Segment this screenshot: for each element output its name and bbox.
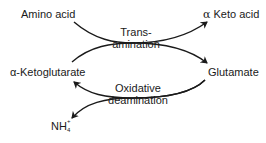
node-glutamate: Glutamate — [208, 66, 259, 78]
process-transamination: Trans- amination — [108, 26, 164, 50]
oxidative-deamination-line1: Oxidative — [104, 82, 172, 94]
ammonium-subscript: 4 — [67, 127, 70, 133]
transamination-deamination-diagram: Amino acid α Keto acid α-Ketoglutarate G… — [0, 0, 266, 143]
transamination-line2: amination — [108, 38, 164, 50]
alpha-symbol: α — [203, 8, 210, 21]
transamination-line1: Trans- — [108, 26, 164, 38]
ammonium-base: NH — [51, 120, 67, 132]
node-alpha-keto-acid: α Keto acid — [203, 8, 259, 21]
node-ammonium: NH+4 — [51, 120, 72, 132]
keto-acid-text: Keto acid — [214, 8, 260, 20]
oxidative-deamination-line2: deamination — [104, 94, 172, 106]
ammonium-charge: + — [67, 118, 71, 124]
node-amino-acid: Amino acid — [21, 8, 75, 20]
node-alpha-ketoglutarate: α-Ketoglutarate — [10, 66, 85, 78]
process-oxidative-deamination: Oxidative deamination — [104, 82, 172, 106]
